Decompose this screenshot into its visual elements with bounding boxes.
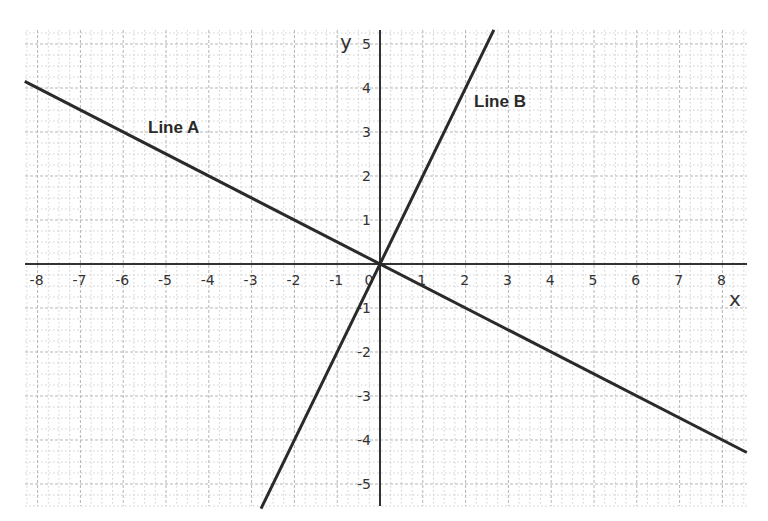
line-b (261, 30, 494, 509)
y-tick-label: -4 (357, 432, 371, 448)
x-tick-label: -6 (115, 272, 129, 288)
x-tick-label: -5 (158, 272, 172, 288)
y-tick-label: 4 (362, 80, 371, 96)
x-tick-label: 4 (546, 272, 555, 288)
x-tick-label: 2 (460, 272, 469, 288)
y-tick-label: 1 (362, 212, 371, 228)
x-tick-label: -7 (72, 272, 86, 288)
x-tick-label: 5 (589, 272, 598, 288)
x-tick-label: -3 (244, 272, 258, 288)
y-tick-label: 2 (362, 168, 371, 184)
x-axis-label: x (729, 287, 741, 311)
x-tick-label: 7 (674, 272, 683, 288)
line-b-label: Line B (474, 92, 526, 111)
x-tick-label: -2 (286, 272, 300, 288)
y-tick-label: 5 (362, 36, 371, 52)
plotted-lines (25, 30, 747, 509)
y-tick-label: -3 (357, 388, 371, 404)
line-a (25, 81, 747, 452)
x-tick-label: 8 (717, 272, 726, 288)
y-tick-label: 3 (362, 124, 371, 140)
y-tick-label: -5 (357, 476, 371, 492)
line-a-label: Line A (148, 118, 199, 137)
x-tick-label: -1 (329, 272, 343, 288)
coordinate-plane: -8-7-6-5-4-3-2-1123456780-5-4-3-2-112345… (0, 0, 768, 521)
x-tick-label: -8 (30, 272, 44, 288)
x-tick-label: 6 (631, 272, 640, 288)
x-tick-label: -4 (201, 272, 215, 288)
x-tick-label: 3 (503, 272, 512, 288)
y-tick-label: -2 (357, 344, 371, 360)
y-axis-label: y (340, 30, 352, 54)
